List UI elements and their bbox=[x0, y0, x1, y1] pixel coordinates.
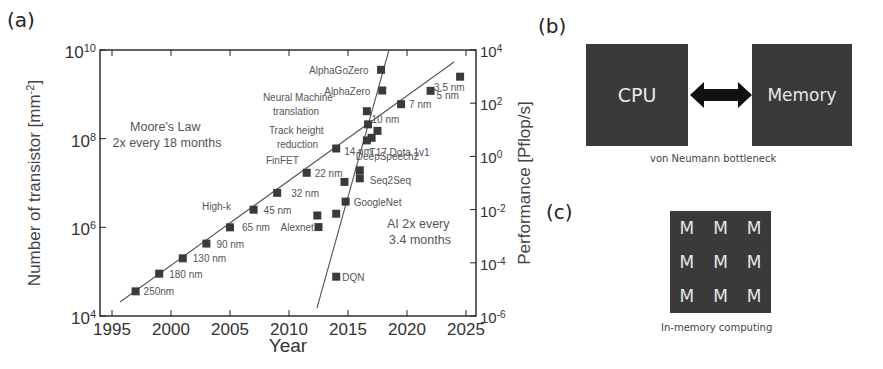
svg-text:3.5 nm: 3.5 nm bbox=[434, 82, 465, 93]
moore-vs-ai-chart: 1995200020052010201520202025 10410610810… bbox=[0, 0, 540, 369]
panel-b-label: (b) bbox=[538, 14, 566, 38]
highk-annotation: High-k bbox=[202, 201, 232, 212]
cpu-label: CPU bbox=[618, 84, 657, 106]
memory-cell: M bbox=[679, 286, 694, 306]
svg-text:Alexnet: Alexnet bbox=[281, 222, 315, 233]
svg-text:100: 100 bbox=[480, 149, 503, 167]
y-axis-title: Number of transistor [mm-2] bbox=[24, 80, 44, 286]
svg-text:10 nm: 10 nm bbox=[372, 114, 400, 125]
svg-text:T17 Dota 1v1: T17 Dota 1v1 bbox=[370, 147, 430, 158]
svg-text:65 nm: 65 nm bbox=[242, 222, 270, 233]
svg-text:130 nm: 130 nm bbox=[193, 253, 226, 264]
svg-text:180 nm: 180 nm bbox=[169, 269, 202, 280]
svg-text:AlphaGoZero: AlphaGoZero bbox=[309, 65, 369, 76]
x-axis-title: Year bbox=[269, 335, 308, 356]
svg-text:10-2: 10-2 bbox=[480, 202, 506, 220]
cpu-box: CPU bbox=[586, 44, 688, 146]
svg-text:108: 108 bbox=[71, 131, 96, 151]
y2-axis-title: Performance [Pflop/s] bbox=[515, 101, 534, 264]
svg-text:Neural Machinetranslation: Neural Machinetranslation bbox=[263, 92, 333, 117]
von-neumann-caption: von Neumann bottleneck bbox=[650, 153, 776, 164]
memory-cell: M bbox=[747, 286, 762, 306]
moore-annotation: Moore's Law 2x every 18 months bbox=[112, 120, 221, 150]
svg-text:2005: 2005 bbox=[211, 320, 249, 339]
svg-text:2020: 2020 bbox=[388, 320, 426, 339]
memory-label: Memory bbox=[767, 85, 836, 105]
memory-cell: M bbox=[679, 252, 694, 272]
svg-text:10-6: 10-6 bbox=[480, 309, 506, 327]
svg-text:2000: 2000 bbox=[152, 320, 190, 339]
svg-text:1995: 1995 bbox=[93, 320, 131, 339]
svg-text:10-4: 10-4 bbox=[480, 255, 506, 273]
bidirectional-arrow-icon bbox=[688, 80, 754, 110]
svg-text:45 nm: 45 nm bbox=[264, 205, 292, 216]
finfet-annotation: FinFET bbox=[266, 155, 299, 166]
svg-text:102: 102 bbox=[480, 96, 503, 114]
memory-cell: M bbox=[713, 286, 728, 306]
svg-text:AlphaZero: AlphaZero bbox=[324, 86, 371, 97]
svg-text:90 nm: 90 nm bbox=[216, 239, 244, 250]
svg-text:GoogleNet: GoogleNet bbox=[354, 197, 402, 208]
svg-text:106: 106 bbox=[71, 219, 96, 239]
svg-text:1010: 1010 bbox=[65, 42, 96, 62]
svg-text:2015: 2015 bbox=[329, 320, 367, 339]
memory-cell: M bbox=[713, 218, 728, 238]
svg-text:Track heightreduction: Track heightreduction bbox=[269, 125, 324, 150]
svg-text:32 nm: 32 nm bbox=[291, 188, 319, 199]
svg-text:7 nm: 7 nm bbox=[409, 99, 431, 110]
svg-text:104: 104 bbox=[480, 43, 503, 61]
panel-c-label: (c) bbox=[546, 200, 573, 224]
x-axis-ticks bbox=[112, 50, 466, 316]
svg-text:250nm: 250nm bbox=[144, 286, 175, 297]
svg-text:DQN: DQN bbox=[342, 272, 364, 283]
memory-cell: M bbox=[713, 252, 728, 272]
memory-cell: M bbox=[747, 218, 762, 238]
svg-text:Seq2Seq: Seq2Seq bbox=[370, 175, 411, 186]
memory-cell: M bbox=[679, 218, 694, 238]
svg-text:22 nm: 22 nm bbox=[315, 168, 343, 179]
in-memory-grid: M M M M M M M M M bbox=[670, 211, 771, 313]
in-memory-caption: In-memory computing bbox=[661, 322, 772, 333]
ai-annotation: AI 2x every 3.4 months bbox=[387, 217, 453, 247]
memory-cell: M bbox=[747, 252, 762, 272]
memory-box: Memory bbox=[752, 44, 852, 146]
data-labels: 250nm180 nm130 nm90 nm65 nm45 nm32 nm22 … bbox=[144, 65, 465, 298]
